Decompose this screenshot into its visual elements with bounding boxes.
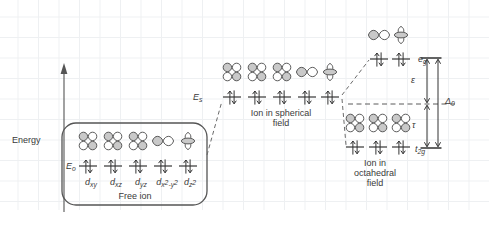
splitting-arrows: [421, 58, 441, 148]
free-ion-energy-label: Eo: [66, 161, 76, 175]
spherical-field-caption-line2: field: [222, 118, 340, 129]
delta-zero-label: Δ0: [445, 96, 455, 110]
crystal-field-diagram: Energy Eo dxy dxz dyz dx2-y2 dz2 Free io…: [0, 0, 489, 234]
octahedral-field-caption-line1: Ion in: [338, 158, 412, 169]
energy-axis-label: Energy: [12, 135, 41, 146]
octahedral-field-caption-line2: octahedral: [338, 168, 412, 179]
spherical-field-orbitals: [223, 63, 336, 81]
octahedral-field-caption-line3: field: [338, 178, 412, 189]
orbital-label-dxz: dxz: [103, 177, 129, 191]
orbital-label-dxy: dxy: [78, 177, 104, 191]
t2g-orbitals: [346, 114, 410, 132]
orbital-label-dz2: dz2: [177, 177, 203, 191]
free-ion-caption: Free ion: [95, 191, 175, 202]
eg-label: eg: [418, 54, 427, 68]
tau-label: τ: [412, 120, 415, 131]
spherical-field-energy-label: Es: [193, 92, 202, 106]
spherical-field-caption-line1: Ion in spherical: [222, 108, 340, 119]
epsilon-label: ε: [411, 75, 415, 86]
t2g-label: t2g: [415, 144, 425, 158]
free-ion-orbitals: [79, 132, 194, 150]
eg-orbitals: [368, 26, 407, 43]
